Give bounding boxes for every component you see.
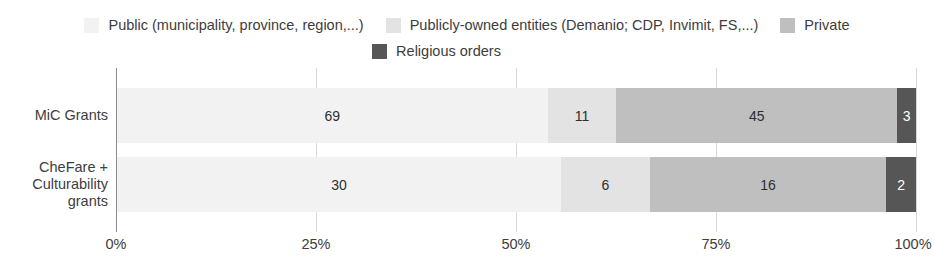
bar-segment-publicly-owned-entities[interactable]: 11 [548, 88, 617, 143]
bar-segment-public[interactable]: 30 [117, 157, 561, 212]
x-tick-25: 25% [301, 236, 330, 252]
bar-segment-private[interactable]: 45 [616, 88, 897, 143]
y-category-label-chefare-line1: CheFare + [32, 159, 108, 176]
bar-segment-private-value: 45 [749, 108, 765, 124]
y-category-label-chefare-line3: grants [32, 193, 108, 210]
y-category-label-mic-grants-line1: MiC Grants [35, 107, 108, 124]
bar-segment-private-value: 16 [760, 177, 776, 193]
y-category-label-chefare-culturability-grants: CheFare + Culturability grants [32, 159, 108, 210]
bar-segment-religious-orders[interactable]: 2 [886, 157, 916, 212]
x-tick-0: 0% [106, 236, 127, 252]
bar-segment-public-value: 69 [325, 108, 341, 124]
y-axis-labels: MiC Grants CheFare + Culturability grant… [0, 0, 108, 274]
bar-segment-publicly-owned-entities[interactable]: 6 [561, 157, 650, 212]
y-category-label-mic-grants: MiC Grants [35, 107, 108, 124]
x-tick-100: 100% [894, 236, 931, 252]
x-tick-75: 75% [701, 236, 730, 252]
y-category-label-chefare-line2: Culturability [32, 176, 108, 193]
bar-segment-public[interactable]: 69 [117, 88, 548, 143]
chart-plot-area: MiC Grants CheFare + Culturability grant… [0, 0, 934, 274]
bar-segment-religious-orders-value: 2 [897, 177, 905, 193]
x-tick-50: 50% [501, 236, 530, 252]
bar-segment-religious-orders-value: 3 [903, 108, 911, 124]
x-axis-tick-labels: 0% 25% 50% 75% 100% [0, 236, 934, 260]
bar-segment-publicly-owned-entities-value: 6 [601, 177, 609, 193]
bar-segment-publicly-owned-entities-value: 11 [575, 108, 590, 124]
bar-segment-public-value: 30 [331, 177, 347, 193]
bar-segment-religious-orders[interactable]: 3 [897, 88, 916, 143]
gridline-100 [916, 68, 917, 232]
bar-segment-private[interactable]: 16 [650, 157, 887, 212]
bar-chefare-culturability-grants: 30 6 16 2 [117, 157, 916, 212]
bar-mic-grants: 69 11 45 3 [117, 88, 916, 143]
